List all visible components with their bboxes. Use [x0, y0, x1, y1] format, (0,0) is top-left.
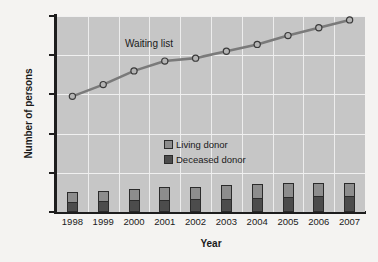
waiting-list-marker-1998	[69, 93, 75, 99]
y-tick-mark-40000	[49, 133, 55, 135]
waiting-list-marker-2003	[223, 48, 229, 54]
waiting-list-marker-2004	[254, 41, 260, 47]
waiting-list-line-series	[57, 16, 365, 212]
legend-swatch-living-donor	[164, 140, 173, 149]
waiting-list-marker-2001	[162, 58, 168, 64]
y-tick-mark-20000	[49, 172, 55, 174]
waiting-list-marker-1999	[100, 82, 106, 88]
y-tick-mark-0	[49, 211, 55, 213]
chart-figure: Number of persons Year 020,00040,00060,0…	[0, 0, 378, 262]
waiting-list-polyline	[72, 20, 349, 96]
waiting-list-marker-2002	[193, 55, 199, 61]
legend-item-deceased-donor: Deceased donor	[164, 153, 246, 166]
legend-label-deceased-donor: Deceased donor	[176, 154, 246, 165]
waiting-list-annotation: Waiting list	[125, 38, 173, 49]
legend-label-living-donor: Living donor	[176, 139, 228, 150]
y-axis-title: Number of persons	[23, 39, 34, 189]
waiting-list-marker-2006	[316, 25, 322, 31]
legend-swatch-deceased-donor	[164, 155, 173, 164]
plot-area	[57, 16, 365, 212]
waiting-list-marker-2005	[285, 33, 291, 39]
x-axis-title: Year	[56, 238, 366, 249]
legend-item-living-donor: Living donor	[164, 138, 246, 151]
chart-legend: Living donor Deceased donor	[164, 138, 246, 168]
waiting-list-marker-2000	[131, 68, 137, 74]
y-tick-mark-60000	[49, 93, 55, 95]
x-tick-label-2007: 2007	[330, 216, 370, 227]
y-tick-mark-100000	[49, 15, 55, 17]
waiting-list-marker-2007	[347, 17, 353, 23]
y-tick-mark-80000	[49, 54, 55, 56]
